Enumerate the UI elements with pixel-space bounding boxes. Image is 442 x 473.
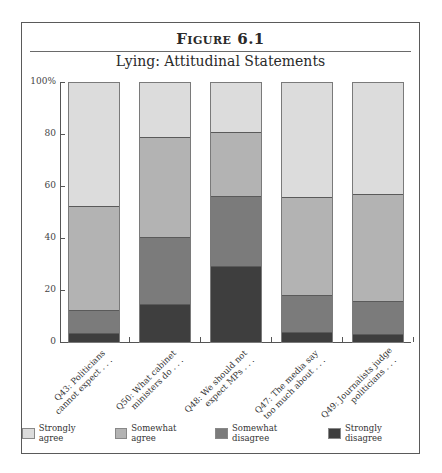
y-tick	[60, 342, 65, 343]
legend-item: Somewhat disagree	[215, 423, 314, 443]
x-tick	[342, 337, 343, 342]
legend-label: Strongly agree	[39, 423, 101, 443]
x-label-line: Q49: Journalists judge	[319, 348, 391, 420]
x-label-line: expect MPs . . .	[184, 355, 256, 427]
x-label-line: cannot expect . . .	[42, 355, 114, 427]
legend-label: Strongly disagree	[345, 423, 419, 443]
bar-segment-strongly-agree	[353, 83, 403, 194]
y-axis	[60, 82, 61, 342]
x-label-line: ministers do . . .	[113, 355, 185, 427]
x-axis-label: Q43: Politicianscannot expect . . .	[35, 348, 114, 427]
y-tick	[60, 290, 65, 291]
y-tick	[60, 186, 65, 187]
bar-segment-somewhat-disagree	[69, 310, 119, 333]
y-tick-label: 100%	[26, 76, 56, 86]
legend-swatch-icon	[328, 428, 341, 439]
bar-segment-somewhat-disagree	[353, 301, 403, 335]
legend-item: Strongly agree	[22, 423, 101, 443]
y-tick	[60, 238, 65, 239]
bar-segment-strongly-disagree	[69, 333, 119, 342]
bar-segment-somewhat-disagree	[211, 196, 261, 266]
legend: Strongly agreeSomewhat agreeSomewhat dis…	[22, 423, 419, 443]
x-label-line: Q43: Politicians	[35, 348, 107, 420]
bar-segment-somewhat-agree	[353, 194, 403, 300]
x-label-line: Q47: The media say	[248, 348, 320, 420]
bar-segment-strongly-agree	[69, 83, 119, 206]
x-tick	[413, 337, 414, 342]
stacked-bar	[139, 82, 191, 343]
y-tick-label: 60	[26, 180, 56, 190]
bar-segment-strongly-disagree	[353, 334, 403, 342]
bar-segment-somewhat-agree	[140, 137, 190, 237]
bar-segment-strongly-disagree	[282, 332, 332, 342]
bar-segment-strongly-disagree	[211, 266, 261, 342]
figure-frame: Figure 6.1 Lying: Attitudinal Statements…	[21, 22, 420, 454]
x-label-line: Q48: We should not	[177, 348, 249, 420]
y-tick	[60, 134, 65, 135]
x-tick	[271, 337, 272, 342]
legend-item: Strongly disagree	[328, 423, 419, 443]
y-tick-label: 40	[26, 232, 56, 242]
bar-segment-strongly-disagree	[140, 304, 190, 342]
x-label-line: Q50: What cabinet	[106, 348, 178, 420]
x-label-line: politicians . . .	[326, 355, 398, 427]
legend-swatch-icon	[22, 428, 35, 439]
bar-segment-somewhat-disagree	[140, 237, 190, 304]
legend-swatch-icon	[215, 428, 228, 439]
x-axis-label: Q47: The media saytoo much about . . .	[248, 348, 327, 427]
y-tick-label: 80	[26, 128, 56, 138]
legend-label: Somewhat disagree	[232, 423, 314, 443]
legend-item: Somewhat agree	[115, 423, 202, 443]
stacked-bar	[68, 82, 120, 343]
x-label-line: too much about . . .	[255, 355, 327, 427]
stacked-bar	[210, 82, 262, 343]
stacked-bar	[281, 82, 333, 343]
bar-segment-strongly-agree	[140, 83, 190, 137]
bar-segment-somewhat-agree	[282, 197, 332, 295]
bar-segment-strongly-agree	[211, 83, 261, 132]
bar-segment-strongly-agree	[282, 83, 332, 197]
x-tick	[200, 337, 201, 342]
y-tick-label: 0	[26, 336, 56, 346]
x-axis-label: Q48: We should notexpect MPs . . .	[177, 348, 256, 427]
bar-segment-somewhat-agree	[211, 132, 261, 195]
y-tick-label: 20	[26, 284, 56, 294]
stacked-bar	[352, 82, 404, 343]
x-axis-label: Q49: Journalists judgepoliticians . . .	[319, 348, 398, 427]
bar-segment-somewhat-agree	[69, 206, 119, 310]
legend-swatch-icon	[115, 428, 128, 439]
plot-area: 020406080100%Q43: Politicianscannot expe…	[22, 23, 421, 455]
x-tick	[129, 337, 130, 342]
y-tick	[60, 82, 65, 83]
x-axis-label: Q50: What cabinetministers do . . .	[106, 348, 185, 427]
legend-label: Somewhat agree	[131, 423, 201, 443]
bar-segment-somewhat-disagree	[282, 295, 332, 331]
